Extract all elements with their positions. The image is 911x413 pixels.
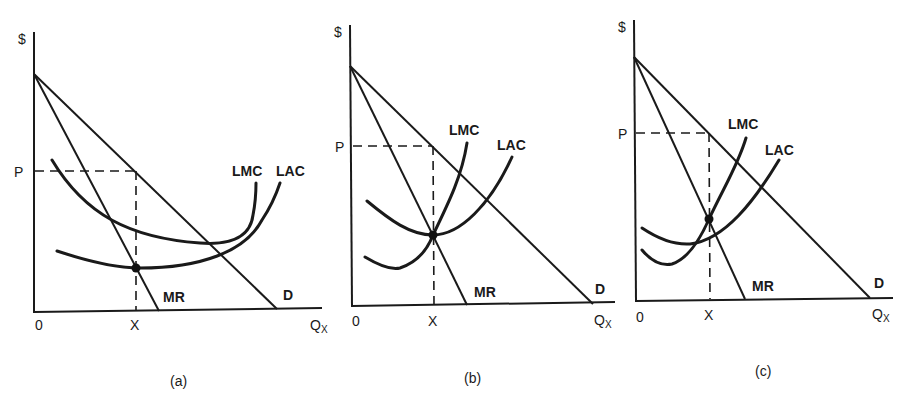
panel-b: $ QX 0 P X LMC LAC MR D (b) <box>334 24 615 386</box>
lmc-curve <box>52 160 256 243</box>
origin-label: 0 <box>636 309 644 325</box>
lmc-label: LMC <box>232 163 262 179</box>
demand-label: D <box>874 275 884 291</box>
x-axis <box>34 308 322 312</box>
panel-caption: (b) <box>464 370 481 386</box>
demand-label: D <box>595 281 605 297</box>
lmc-curve <box>642 138 746 264</box>
demand-curve <box>34 74 277 309</box>
demand-curve <box>634 57 870 298</box>
mr-label: MR <box>752 278 774 294</box>
panel-caption: (c) <box>755 363 771 379</box>
x-axis <box>636 298 893 301</box>
quantity-label: X <box>130 317 140 333</box>
y-axis-label: $ <box>18 31 26 47</box>
equilibrium-point <box>132 264 141 273</box>
quantity-label: X <box>428 313 438 329</box>
lac-label: LAC <box>497 137 526 153</box>
price-label: P <box>618 126 627 142</box>
x-axis-label: QX <box>310 317 328 335</box>
panel-caption: (a) <box>170 373 187 389</box>
quantity-guide-line <box>433 146 434 305</box>
equilibrium-point <box>705 215 714 224</box>
mr-label: MR <box>163 289 185 305</box>
panel-a: $ QX 0 P X LMC LAC MR D (a) <box>14 31 328 389</box>
y-axis-label: $ <box>618 19 626 35</box>
demand-label: D <box>283 287 293 303</box>
quantity-label: X <box>704 307 714 323</box>
equilibrium-point <box>429 231 438 240</box>
lac-label: LAC <box>765 142 794 158</box>
price-label: P <box>14 164 23 180</box>
origin-label: 0 <box>35 317 43 333</box>
mr-label: MR <box>474 284 496 300</box>
y-axis-label: $ <box>334 24 342 40</box>
marginal-revenue-curve <box>34 74 159 311</box>
lmc-label: LMC <box>449 122 479 138</box>
panel-c: $ QX 0 P X LMC LAC MR D (c) <box>618 19 893 379</box>
marginal-revenue-curve <box>350 66 467 305</box>
x-axis-label: QX <box>594 312 612 330</box>
lmc-curve <box>365 143 467 269</box>
lmc-label: LMC <box>728 116 758 132</box>
price-label: P <box>335 139 344 155</box>
lac-curve <box>57 183 280 268</box>
x-axis-label: QX <box>872 306 890 324</box>
x-axis <box>352 302 615 306</box>
economics-diagram: $ QX 0 P X LMC LAC MR D (a) $ QX 0 P X L… <box>0 0 911 413</box>
lac-label: LAC <box>276 163 305 179</box>
origin-label: 0 <box>352 313 360 329</box>
lac-curve <box>642 160 779 244</box>
